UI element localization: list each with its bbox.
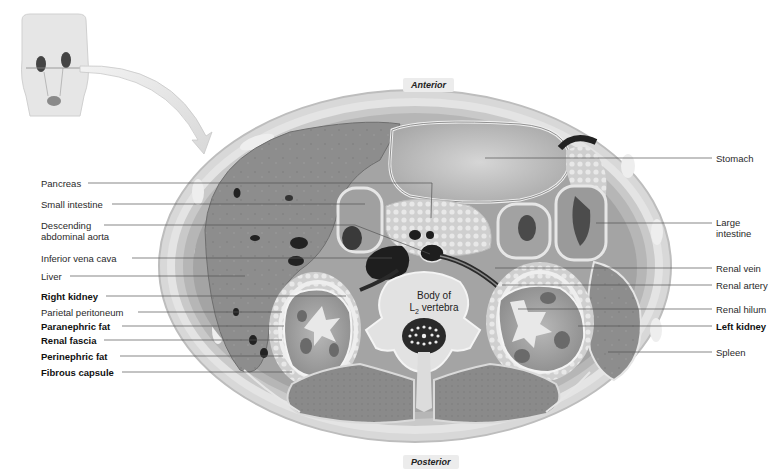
- descending-aorta: [420, 244, 444, 262]
- vertebra-label-line2: L2 vertebra: [404, 302, 464, 318]
- label-inferior-vena-cava: Inferior vena cava: [41, 253, 117, 264]
- label-spleen: Spleen: [716, 347, 746, 358]
- body-orientation-figure: [22, 14, 89, 116]
- label-large-intestine-line1: Large: [716, 217, 751, 228]
- label-perinephric-fat: Perinephric fat: [41, 351, 108, 362]
- label-paranephric-fat: Paranephric fat: [41, 321, 110, 332]
- label-descending-aorta-line1: Descending: [41, 220, 109, 231]
- label-fibrous-capsule: Fibrous capsule: [41, 367, 114, 378]
- stomach: [390, 122, 570, 202]
- label-pancreas: Pancreas: [41, 178, 81, 189]
- label-large-intestine-line2: intestine: [716, 228, 751, 239]
- posterior-label: Posterior: [403, 455, 459, 469]
- label-parietal-peritoneum: Parietal peritoneum: [41, 307, 123, 318]
- label-small-intestine: Small intestine: [41, 199, 103, 210]
- label-renal-artery: Renal artery: [716, 280, 768, 291]
- label-descending-aorta-line2: abdominal aorta: [41, 231, 109, 242]
- anatomy-illustration: [0, 0, 784, 474]
- label-renal-fascia: Renal fascia: [41, 335, 96, 346]
- label-renal-hilum: Renal hilum: [716, 304, 766, 315]
- vertebra-suffix: vertebra: [419, 302, 458, 313]
- label-liver: Liver: [41, 271, 62, 282]
- label-right-kidney: Right kidney: [41, 291, 98, 302]
- label-descending-aorta: Descending abdominal aorta: [41, 220, 109, 242]
- pointer-arrow: [80, 66, 212, 154]
- right-kidney: [280, 282, 356, 378]
- label-renal-vein: Renal vein: [716, 263, 761, 274]
- anterior-label: Anterior: [403, 78, 454, 92]
- vertebra-label: Body of L2 vertebra: [404, 290, 464, 318]
- label-stomach: Stomach: [716, 153, 754, 164]
- vertebra-label-line1: Body of: [404, 290, 464, 302]
- label-left-kidney: Left kidney: [716, 321, 766, 332]
- label-large-intestine: Large intestine: [716, 217, 751, 239]
- left-kidney: [498, 272, 584, 372]
- kidney-cross-section-diagram: Anterior Posterior Body of L2 vertebra P…: [0, 0, 784, 474]
